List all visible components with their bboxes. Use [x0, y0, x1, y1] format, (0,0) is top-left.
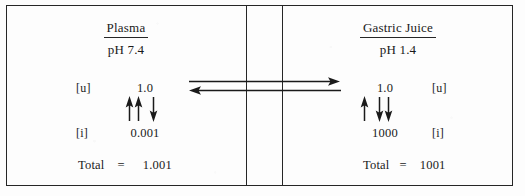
plasma-heading: Plasma pH 7.4	[6, 18, 246, 58]
gastric-total-equals: =	[400, 158, 407, 173]
plasma-total-equals: =	[118, 158, 125, 173]
plasma-total-value: 1.001	[143, 158, 172, 173]
gastric-total-row: Total=1001	[363, 158, 446, 173]
gastric-total-word: Total	[363, 158, 390, 173]
plasma-unionized-label: [u]	[76, 81, 91, 95]
gastric-unionized-label: [u]	[432, 81, 447, 95]
plasma-ph-label: pH 7.4	[6, 41, 246, 58]
gastric-ionized-label: [i]	[432, 126, 444, 140]
plasma-ionized-value: 0.001	[118, 126, 172, 140]
gastric-juice-title: Gastric Juice	[360, 19, 436, 38]
plasma-total-word: Total	[78, 158, 105, 173]
plasma-title: Plasma	[104, 19, 149, 38]
gastric-unionized-value: 1.0	[358, 81, 412, 95]
plasma-ionized-label: [i]	[76, 126, 88, 140]
membrane-line-left	[246, 5, 247, 186]
ion-trapping-figure: Plasma pH 7.4 [u] 1.0 [i] 0.001 Total=1.…	[0, 0, 525, 196]
plasma-unionized-value: 1.0	[118, 81, 172, 95]
gastric-total-value: 1001	[420, 158, 446, 173]
gastric-juice-heading: Gastric Juice pH 1.4	[283, 18, 513, 58]
gastric-ionized-value: 1000	[358, 126, 412, 140]
plasma-total-row: Total=1.001	[78, 158, 172, 173]
gastric-juice-ph-label: pH 1.4	[283, 41, 513, 58]
